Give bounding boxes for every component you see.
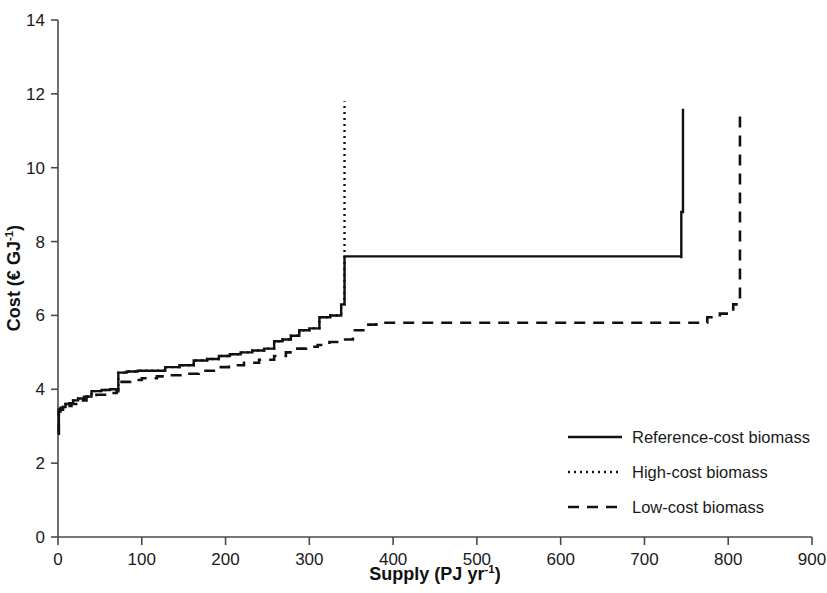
cost-supply-line-chart: 02468101214 0100200300400500600700800900… [0,0,827,593]
y-tick-label: 4 [36,380,45,399]
legend-label: High-cost biomass [632,463,768,481]
x-tick-label: 700 [630,550,658,569]
y-tick-label: 12 [26,85,45,104]
chart-figure: 02468101214 0100200300400500600700800900… [0,0,827,593]
legend-label: Low-cost biomass [632,498,764,516]
legend-label: Reference-cost biomass [632,428,810,446]
y-tick-label: 8 [36,233,45,252]
y-tick-label: 10 [26,159,45,178]
x-tick-label: 0 [53,550,62,569]
x-tick-label: 300 [295,550,323,569]
x-tick-label: 200 [211,550,239,569]
x-tick-label: 100 [128,550,156,569]
x-tick-label: 900 [798,550,826,569]
x-axis-title: Supply (PJ yr-1) [369,563,500,584]
y-tick-label: 14 [26,11,45,30]
y-tick-label: 2 [36,454,45,473]
y-tick-label: 0 [36,528,45,547]
x-tick-label: 600 [546,550,574,569]
x-tick-label: 800 [714,550,742,569]
y-tick-label: 6 [36,306,45,325]
